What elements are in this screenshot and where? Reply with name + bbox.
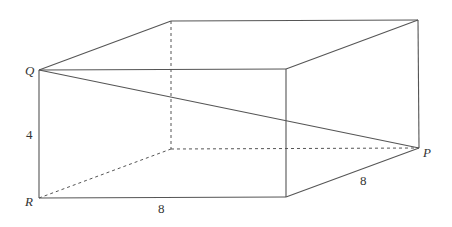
prism-diagram: Q R P 4 8 8 xyxy=(0,0,452,227)
edge-top-right-depth xyxy=(286,20,418,69)
edge-top-back xyxy=(171,20,418,21)
dimension-label-length: 8 xyxy=(158,201,165,216)
dimension-label-depth: 8 xyxy=(360,173,367,188)
diagonal-QP xyxy=(39,70,419,148)
edge-front-top xyxy=(39,69,286,70)
edge-bottom-right-depth xyxy=(286,148,419,197)
vertex-label-p: P xyxy=(422,145,431,160)
vertex-label-q: Q xyxy=(25,63,35,78)
edge-front-bottom xyxy=(39,197,286,198)
diagram-canvas: Q R P 4 8 8 xyxy=(0,0,452,227)
vertex-label-r: R xyxy=(24,194,33,209)
hidden-edge-back-bottom xyxy=(171,148,419,149)
hidden-edge-left-bottom-depth xyxy=(39,149,171,198)
edge-top-left-depth xyxy=(39,21,171,70)
dimension-label-height: 4 xyxy=(26,127,33,142)
edge-back-right-vertical xyxy=(418,20,419,148)
